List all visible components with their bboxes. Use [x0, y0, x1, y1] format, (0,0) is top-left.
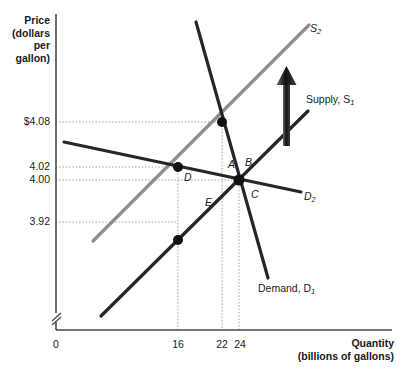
point-22-408	[217, 117, 227, 127]
curve-label-d2-text: D	[304, 190, 312, 202]
guide-lines	[56, 122, 239, 330]
annotation-b: B	[245, 156, 252, 168]
curve-label-s1: Supply, S1	[306, 93, 354, 107]
axis-break-mark-1	[52, 313, 61, 321]
y-tick-label-400: 4.00	[2, 173, 50, 185]
supply-demand-chart: Price (dollars per gallon) $4.08 4.02 4.…	[0, 0, 398, 375]
y-tick-label-408: $4.08	[2, 115, 50, 127]
annotation-e: E	[205, 196, 212, 208]
annotation-d: D	[184, 171, 192, 183]
curve-label-d1: Demand, D1	[258, 282, 315, 296]
y-axis-title: Price (dollars per gallon)	[2, 14, 50, 64]
chart-canvas	[0, 0, 398, 375]
point-16-402	[173, 162, 183, 172]
x-axis-title: Quantity (billions of gallons)	[258, 337, 394, 362]
x-tick-label-0: 0	[42, 338, 70, 350]
curve-label-s2-text: S	[310, 22, 317, 34]
curve-s2	[93, 25, 309, 241]
curve-label-d2-subscript: 2	[312, 195, 316, 204]
x-axis-title-line2: (billions of gallons)	[258, 350, 394, 363]
x-tick-label-16: 16	[164, 338, 192, 350]
curve-label-s1-subscript: 1	[350, 98, 354, 107]
curve-label-s2: S2	[310, 22, 321, 36]
y-tick-label-402: 4.02	[2, 160, 50, 172]
annotation-a: A	[228, 158, 235, 170]
point-16-392	[173, 235, 183, 245]
curve-label-d2: D2	[304, 190, 316, 204]
curve-label-s2-subscript: 2	[317, 27, 321, 36]
curve-label-d1-text: Demand, D	[258, 282, 311, 294]
y-axis-title-line2: (dollars	[2, 27, 50, 40]
point-24-400	[233, 174, 244, 185]
y-tick-label-392: 3.92	[2, 215, 50, 227]
y-axis-title-line4: gallon)	[2, 52, 50, 65]
supply-shift-arrow	[277, 66, 297, 146]
y-axis-title-line1: Price	[2, 14, 50, 27]
annotation-c: C	[251, 188, 259, 200]
y-axis-title-line3: per	[2, 39, 50, 52]
x-axis-title-line1: Quantity	[258, 337, 394, 350]
curve-d1	[196, 22, 268, 278]
curve-label-s1-text: Supply, S	[306, 93, 350, 105]
x-tick-label-24: 24	[226, 338, 254, 350]
curve-label-d1-subscript: 1	[311, 287, 315, 296]
